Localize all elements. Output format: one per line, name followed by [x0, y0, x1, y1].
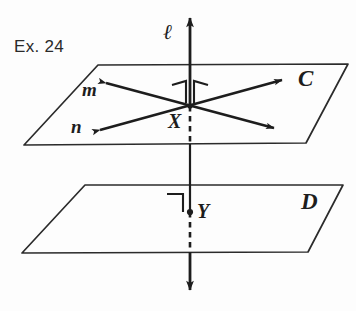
- plane-d-label: D: [301, 190, 318, 213]
- point-y-dot: [187, 209, 193, 215]
- line-n-label: n: [71, 117, 82, 136]
- right-angle-marker-y: [167, 194, 183, 212]
- right-angle-marker-x-left: [172, 81, 186, 103]
- exercise-label: Ex. 24: [14, 38, 64, 55]
- point-y-label: Y: [197, 201, 209, 221]
- point-x-label: X: [168, 111, 181, 131]
- point-x-dot: [187, 103, 192, 108]
- geometry-figure: Ex. 24 ℓ m n C D X Y: [0, 0, 356, 311]
- line-l-label: ℓ: [163, 22, 172, 43]
- plane-c-label: C: [298, 67, 313, 90]
- line-m-label: m: [82, 80, 97, 99]
